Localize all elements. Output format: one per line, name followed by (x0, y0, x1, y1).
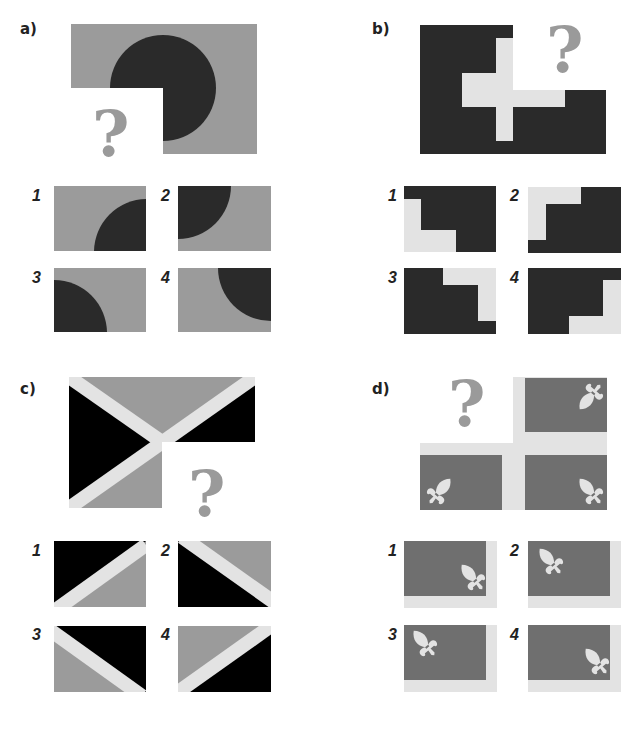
option-number: 1 (388, 542, 397, 560)
option-d-3-image[interactable] (404, 625, 497, 692)
option-number: 3 (388, 626, 397, 644)
option-d-1-image[interactable] (404, 541, 497, 608)
option-number: 2 (510, 542, 519, 560)
option-number: 4 (510, 626, 519, 644)
option-d-2-image[interactable] (528, 541, 621, 608)
option-d-4-image[interactable] (528, 625, 621, 692)
question-mark-d: ? (448, 372, 486, 436)
